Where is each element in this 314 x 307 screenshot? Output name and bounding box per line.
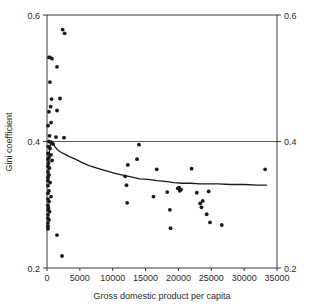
scatter-point (55, 233, 59, 237)
y-tick-label-right: 0.4 (284, 137, 297, 147)
scatter-point (125, 183, 129, 187)
scatter-point (200, 205, 204, 209)
y-axis-ticks-left (43, 15, 47, 268)
scatter-point (48, 80, 52, 84)
chart-figure: 05000100001500020000250003000035000 0.20… (0, 0, 314, 307)
scatter-point (155, 167, 159, 171)
scatter-point (165, 190, 169, 194)
scatter-point (46, 124, 50, 128)
scatter-point (135, 157, 139, 161)
y-axis-title: Gini coefficient (4, 112, 14, 171)
scatter-point (46, 191, 50, 195)
x-tick-label: 5000 (70, 273, 90, 283)
scatter-point (47, 110, 51, 114)
scatter-point (58, 97, 62, 101)
x-tick-label: 35000 (264, 273, 289, 283)
scatter-point (169, 226, 173, 230)
scatter-point (61, 28, 65, 32)
x-axis-tick-labels: 05000100001500020000250003000035000 (44, 273, 289, 283)
scatter-point (63, 31, 67, 35)
scatter-point (50, 159, 54, 163)
y-tick-label-left: 0.6 (27, 11, 40, 21)
scatter-point (48, 166, 52, 170)
scatter-point (49, 121, 53, 125)
scatter-point (48, 134, 52, 138)
scatter-point (205, 212, 209, 216)
y-axis-ticks-right (277, 15, 281, 268)
scatter-point (51, 142, 55, 146)
scatter-point (47, 161, 51, 165)
x-tick-label: 30000 (232, 273, 257, 283)
scatter-point (168, 208, 172, 212)
scatter-point (123, 174, 127, 178)
scatter-point (47, 200, 51, 204)
scatter-point (263, 167, 267, 171)
scatter-point (48, 147, 52, 151)
x-tick-label: 15000 (133, 273, 158, 283)
scatter-point (60, 254, 64, 258)
scatter-point (195, 191, 199, 195)
y-axis-tick-labels-right: 0.20.40.6 (284, 11, 297, 274)
x-tick-label: 25000 (199, 273, 224, 283)
x-tick-label: 20000 (166, 273, 191, 283)
scatter-point (152, 195, 156, 199)
scatter-point (46, 157, 50, 161)
x-tick-label: 10000 (100, 273, 125, 283)
scatter-point (220, 223, 224, 227)
scatter-point (54, 135, 58, 139)
scatter-point (179, 188, 183, 192)
x-tick-label: 0 (44, 273, 49, 283)
y-tick-label-left: 0.2 (27, 264, 40, 274)
scatter-point (50, 57, 54, 61)
scatter-point (207, 190, 211, 194)
scatter-point (55, 65, 59, 69)
scatter-point (125, 201, 129, 205)
scatter-point (50, 97, 54, 101)
scatter-plot: 05000100001500020000250003000035000 0.20… (0, 0, 314, 307)
y-tick-label-right: 0.6 (284, 11, 297, 21)
y-tick-label-right: 0.2 (284, 264, 297, 274)
x-axis-title: Gross domestic product per capita (93, 291, 230, 301)
scatter-point (208, 221, 212, 225)
scatter-point (55, 109, 59, 113)
scatter-point (49, 195, 53, 199)
scatter-point (46, 227, 50, 231)
scatter-point (48, 181, 52, 185)
y-tick-label-left: 0.4 (27, 137, 40, 147)
scatter-point (201, 199, 205, 203)
scatter-point (49, 105, 53, 109)
scatter-point (46, 184, 50, 188)
y-axis-tick-labels-left: 0.20.40.6 (27, 11, 40, 274)
scatter-point (126, 163, 130, 167)
scatter-point (62, 136, 66, 140)
scatter-point (190, 167, 194, 171)
scatter-point (137, 143, 141, 147)
